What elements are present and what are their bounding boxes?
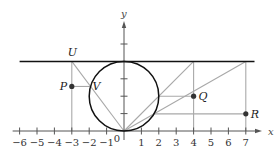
point-p-dot (69, 84, 74, 89)
x-tick-label: −1 (99, 137, 114, 148)
x-axis-label: x (268, 126, 274, 137)
point-q-dot (191, 94, 196, 99)
x-tick-label: 4 (190, 137, 196, 148)
x-tick-label: 6 (225, 137, 231, 148)
label-u: U (68, 46, 78, 59)
point-r-dot (243, 111, 248, 116)
x-tick-label: −5 (30, 137, 45, 148)
x-tick-label: 1 (138, 137, 144, 148)
label-r: R (250, 108, 259, 121)
origin-label: 0 (114, 133, 120, 144)
circle-and-line (20, 61, 255, 131)
x-tick-label: −4 (47, 137, 62, 148)
label-v: V (93, 80, 102, 93)
diagram-figure: xy−6−5−4−3−2−112345670 UVPQR (0, 0, 280, 159)
y-axis-arrow-icon (122, 21, 126, 28)
x-axis-arrow-icon (255, 129, 262, 133)
y-axis-label: y (120, 8, 127, 19)
x-tick-label: −6 (12, 137, 27, 148)
label-p: P (59, 80, 68, 93)
x-tick-label: 2 (156, 137, 162, 148)
x-tick-label: 3 (173, 137, 179, 148)
x-tick-label: −2 (82, 137, 97, 148)
x-tick-label: 7 (243, 137, 249, 148)
coordinate-axes: xy−6−5−4−3−2−112345670 (12, 8, 274, 148)
x-tick-label: 5 (208, 137, 214, 148)
label-q: Q (199, 90, 208, 103)
ray-from-origin (72, 61, 124, 131)
x-tick-label: −3 (64, 137, 79, 148)
